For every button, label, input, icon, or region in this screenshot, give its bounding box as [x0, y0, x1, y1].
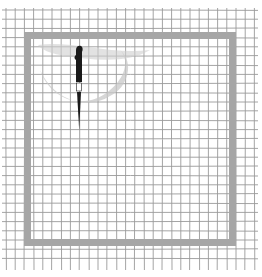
dagger-icon [75, 46, 83, 130]
crescent-upper [38, 44, 150, 60]
grid-frame-knife-illustration [0, 0, 262, 277]
illustration-canvas [0, 0, 262, 277]
